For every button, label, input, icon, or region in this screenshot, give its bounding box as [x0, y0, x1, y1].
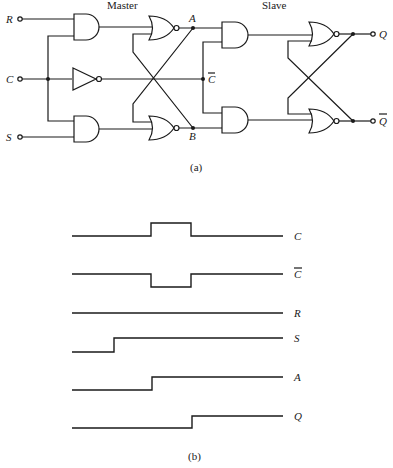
signal-label-r: R [293, 307, 301, 319]
waveform-q [72, 416, 283, 428]
master-slave-flipflop-figure: Master Slave R C S [0, 0, 393, 468]
master-label: Master [107, 0, 138, 11]
nor-gate-icon [149, 16, 174, 40]
signal-label-s: S [294, 332, 300, 344]
signal-label-c: C [294, 230, 302, 242]
input-terminal-c: C [6, 73, 72, 85]
terminal-circle-icon [18, 17, 22, 21]
nor-gate-icon [309, 22, 334, 46]
nor-gate-icon [309, 109, 334, 133]
output-label-q: Q [379, 28, 387, 40]
input-terminal-s: S [6, 131, 74, 143]
timing-diagram: C C R S A Q (b) [72, 223, 302, 463]
terminal-circle-icon [18, 135, 22, 139]
and-gate-icon [222, 107, 248, 133]
input-terminal-r: R [5, 13, 74, 25]
waveform-s [72, 338, 283, 352]
waveform-a [72, 377, 283, 390]
signal-label-c-bar: C [294, 268, 302, 280]
terminal-circle-icon [18, 77, 22, 81]
terminal-circle-icon [371, 32, 375, 36]
signal-label-a: A [293, 371, 301, 383]
inversion-bubble-icon [174, 26, 179, 31]
inversion-bubble-icon [334, 119, 339, 124]
output-label-q-bar: Q [379, 115, 387, 127]
node-label-b: B [189, 130, 196, 142]
junction-dot-icon [46, 77, 50, 81]
input-label-s: S [6, 131, 12, 143]
and-gate-icon [222, 22, 248, 48]
node-label-c-bar: C [208, 73, 216, 85]
waveform-c [72, 223, 283, 236]
caption-b: (b) [188, 450, 201, 463]
waveform-c-bar [72, 274, 283, 287]
terminal-circle-icon [371, 119, 375, 123]
inversion-bubble-icon [174, 126, 179, 131]
and-gate-icon [74, 116, 99, 142]
slave-label: Slave [262, 0, 287, 11]
nor-gate-icon [149, 116, 174, 140]
circuit-diagram: Master Slave R C S [5, 0, 387, 174]
input-label-c: C [6, 73, 14, 85]
inverter-gate-icon [73, 68, 96, 90]
node-label-a: A [188, 12, 196, 24]
inversion-bubble-icon [334, 32, 339, 37]
inversion-bubble-icon [97, 77, 102, 82]
input-label-r: R [5, 13, 13, 25]
signal-label-q: Q [294, 410, 302, 422]
caption-a: (a) [190, 161, 203, 174]
and-gate-icon [74, 14, 99, 40]
